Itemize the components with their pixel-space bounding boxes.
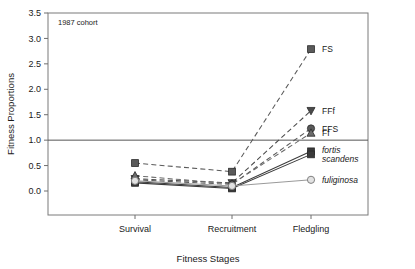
y-tick-label: 1.0 (28, 135, 41, 145)
data-point-fuliginosa-survival (131, 177, 138, 184)
y-tick-label: 0.5 (28, 161, 41, 171)
fitness-proportions-chart: 0.00.51.01.52.02.53.03.5SurvivalRecruitm… (0, 0, 415, 269)
legend-label-scandens: scandens (322, 154, 359, 164)
legend-label-FS: FS (322, 44, 333, 54)
y-tick-label: 0.0 (28, 186, 41, 196)
legend-label-FFf: FFf (322, 106, 335, 116)
y-tick-label: 1.5 (28, 110, 41, 120)
y-tick-label: 2.5 (28, 59, 41, 69)
x-category-label-recruitment: Recruitment (208, 224, 257, 234)
data-point-FS-recruitment (229, 168, 236, 175)
legend-label-Ff: Ff (322, 128, 330, 138)
legend-label-fuliginosa: fuliginosa (322, 175, 358, 185)
series-line-FS (135, 49, 311, 172)
y-axis-title: Fitness Proportions (5, 73, 16, 155)
y-tick-label: 2.0 (28, 84, 41, 94)
data-point-scandens-fledgling (308, 151, 315, 158)
series-line-FFf (135, 111, 311, 183)
cohort-annotation: 1987 cohort (58, 18, 99, 27)
chart-canvas: 0.00.51.01.52.02.53.03.5SurvivalRecruitm… (0, 0, 415, 269)
x-category-label-fledgling: Fledgling (293, 224, 330, 234)
x-category-label-survival: Survival (119, 224, 151, 234)
data-point-fuliginosa-fledgling (307, 176, 314, 183)
data-point-fuliginosa-recruitment (228, 182, 235, 189)
data-point-FS-survival (132, 160, 139, 167)
y-tick-label: 3.0 (28, 34, 41, 44)
series-line-Ff (135, 133, 311, 184)
x-axis-title: Fitness Stages (177, 253, 240, 264)
data-point-FS-fledgling (308, 46, 315, 53)
series-line-FFS (135, 128, 311, 184)
y-tick-label: 3.5 (28, 8, 41, 18)
